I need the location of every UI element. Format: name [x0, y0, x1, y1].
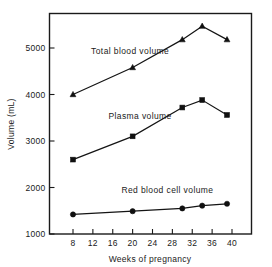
data-point-red-blood-cell-volume [130, 209, 135, 214]
chart-figure: 10002000300040005000 81216202428323640 T… [0, 0, 272, 267]
y-axis-tick-labels: 10002000300040005000 [25, 43, 45, 239]
series-label-total-blood-volume: Total blood volume [91, 46, 169, 56]
x-axis-title: Weeks of pregnancy [109, 254, 192, 264]
y-axis-title: Volume (mL) [6, 98, 16, 149]
data-point-plasma-volume [225, 113, 230, 118]
x-tick-label: 28 [167, 238, 177, 248]
x-tick-label: 36 [207, 238, 217, 248]
y-tick-label: 4000 [25, 90, 45, 100]
x-tick-label: 32 [187, 238, 197, 248]
series-line-total-blood-volume [73, 26, 227, 94]
data-point-red-blood-cell-volume [70, 212, 75, 217]
x-tick-label: 20 [128, 238, 138, 248]
series-line-plasma-volume [73, 100, 227, 160]
series-inline-labels: Total blood volumePlasma volumeRed blood… [91, 46, 213, 195]
volume-vs-weeks-line-chart: 10002000300040005000 81216202428323640 T… [0, 0, 272, 267]
data-point-plasma-volume [130, 134, 135, 139]
x-axis-ticks [73, 229, 232, 234]
y-axis-ticks [50, 48, 55, 234]
y-tick-label: 2000 [25, 183, 45, 193]
x-axis-tick-labels: 81216202428323640 [70, 238, 237, 248]
data-point-total-blood-volume [130, 64, 136, 69]
data-point-red-blood-cell-volume [180, 206, 185, 211]
y-tick-label: 1000 [25, 229, 45, 239]
series-label-red-blood-cell-volume: Red blood cell volume [121, 185, 213, 195]
x-tick-label: 24 [147, 238, 157, 248]
data-point-plasma-volume [71, 157, 76, 162]
x-tick-label: 16 [108, 238, 118, 248]
data-point-red-blood-cell-volume [224, 201, 229, 206]
x-tick-label: 40 [227, 238, 237, 248]
data-point-plasma-volume [200, 98, 205, 103]
data-point-total-blood-volume [179, 37, 185, 42]
data-point-total-blood-volume [199, 23, 205, 28]
x-tick-label: 12 [88, 238, 98, 248]
x-tick-label: 8 [70, 238, 75, 248]
y-tick-label: 3000 [25, 136, 45, 146]
series-label-plasma-volume: Plasma volume [108, 111, 171, 121]
data-point-plasma-volume [180, 105, 185, 110]
y-tick-label: 5000 [25, 43, 45, 53]
data-point-red-blood-cell-volume [200, 203, 205, 208]
